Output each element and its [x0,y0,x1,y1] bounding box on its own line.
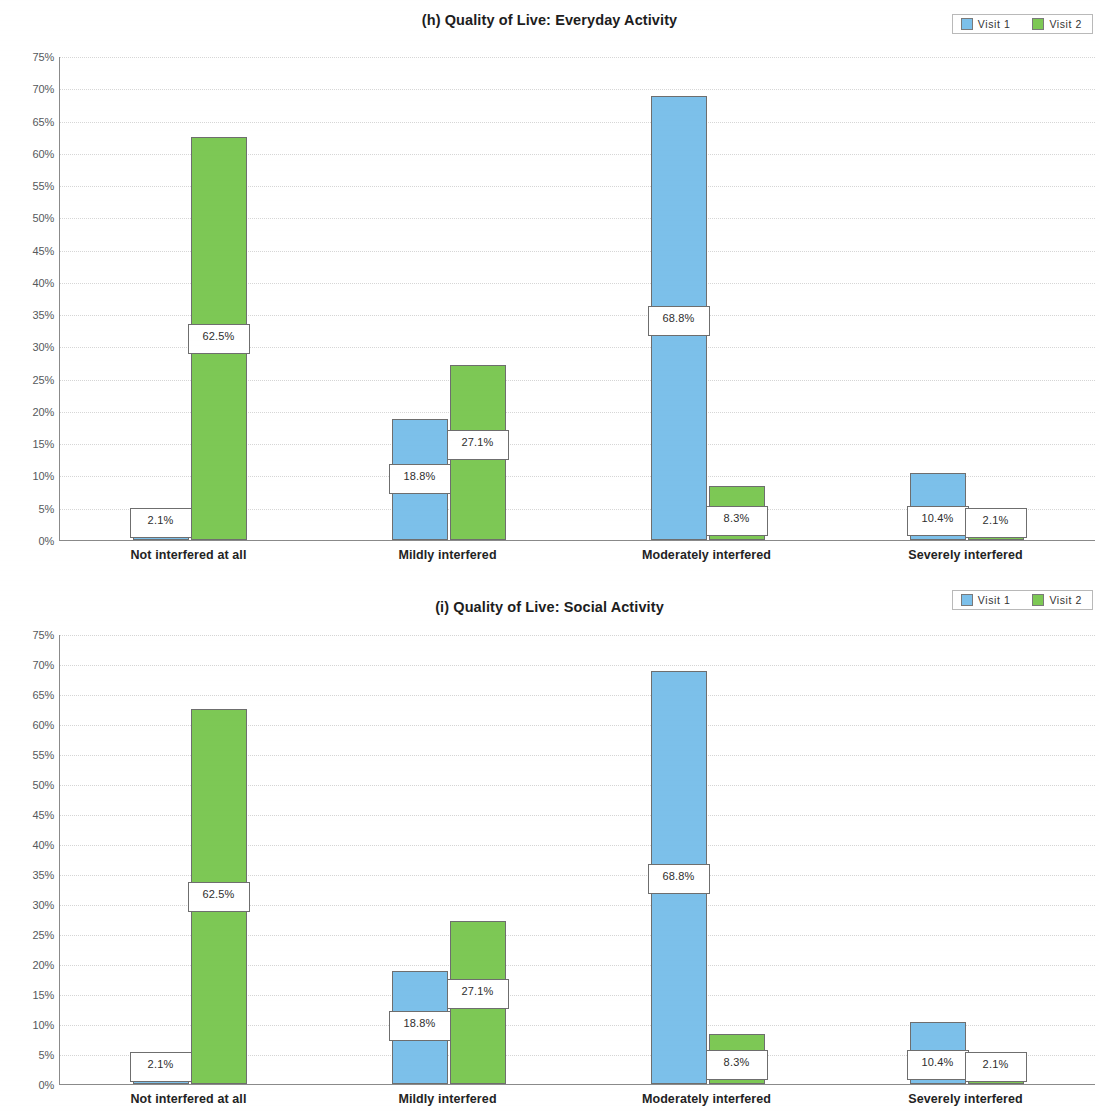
y-axis-tick-label: 45% [0,245,54,257]
y-axis-tick-label: 40% [0,277,54,289]
bar-group: 2.1%62.5% [60,57,319,540]
y-axis-tick-label: 75% [0,629,54,641]
legend-label-visit-2: Visit 2 [1049,18,1082,30]
y-axis-tick-label: 75% [0,51,54,63]
y-axis-tick-label: 40% [0,839,54,851]
y-axis-tick-label: 50% [0,212,54,224]
y-axis-tick-label: 35% [0,869,54,881]
y-axis-tick-label: 60% [0,148,54,160]
chart-panel-everyday-activity: (h) Quality of Live: Everyday Activity V… [0,0,1099,583]
bar-group: 10.4%2.1% [837,57,1096,540]
x-axis-category-label: Not interfered at all [130,548,246,562]
bar-data-label: 2.1% [130,508,192,538]
y-axis-tick-label: 30% [0,341,54,353]
bar-data-label: 2.1% [130,1052,192,1082]
y-axis-tick-label: 25% [0,374,54,386]
y-axis-tick-label: 25% [0,929,54,941]
legend-label-visit-1: Visit 1 [978,18,1011,30]
x-axis-category-label: Severely interfered [908,548,1022,562]
bar-data-label: 27.1% [447,430,509,460]
y-axis-tick-label: 65% [0,116,54,128]
bar-data-label: 10.4% [907,506,969,536]
y-axis-tick-label: 55% [0,180,54,192]
y-axis-tick-label: 0% [0,1079,54,1091]
y-axis: 75%70%65%60%55%50%45%40%35%30%25%20%15%1… [0,57,54,541]
legend-label-visit-2: Visit 2 [1049,594,1082,606]
y-axis-tick-label: 20% [0,406,54,418]
bar-data-label: 8.3% [706,1050,768,1080]
legend-swatch-visit-1-icon [961,594,973,606]
x-axis-category-label: Not interfered at all [130,1092,246,1106]
legend-label-visit-1: Visit 1 [978,594,1011,606]
legend-entry-visit-1: Visit 1 [961,18,1011,30]
bar-data-label: 18.8% [389,464,451,494]
y-axis-tick-label: 0% [0,535,54,547]
x-axis-category-label: Severely interfered [908,1092,1022,1106]
bar-data-label: 62.5% [188,324,250,354]
bar-data-label: 2.1% [965,1052,1027,1082]
y-axis-tick-label: 70% [0,83,54,95]
bar-group: 2.1%62.5% [60,635,319,1084]
y-axis-tick-label: 70% [0,659,54,671]
x-axis-category-label: Moderately interfered [642,1092,771,1106]
y-axis-tick-label: 20% [0,959,54,971]
legend-swatch-visit-2-icon [1032,594,1044,606]
y-axis-tick-label: 35% [0,309,54,321]
bar-data-label: 62.5% [188,882,250,912]
chart-title: (i) Quality of Live: Social Activity [0,599,1099,615]
y-axis-tick-label: 55% [0,749,54,761]
chart-legend: Visit 1 Visit 2 [952,14,1093,34]
bar-data-label: 8.3% [706,506,768,536]
bar-data-label: 2.1% [965,508,1027,538]
y-axis: 75%70%65%60%55%50%45%40%35%30%25%20%15%1… [0,635,54,1085]
x-axis-category-label: Mildly interfered [398,1092,496,1106]
legend-entry-visit-2: Visit 2 [1032,18,1082,30]
bar-data-label: 27.1% [447,979,509,1009]
bar-data-label: 68.8% [648,306,710,336]
legend-entry-visit-2: Visit 2 [1032,594,1082,606]
x-axis: Not interfered at allMildly interferedMo… [59,548,1095,572]
y-axis-tick-label: 60% [0,719,54,731]
x-axis-category-label: Moderately interfered [642,548,771,562]
legend-swatch-visit-2-icon [1032,18,1044,30]
y-axis-tick-label: 10% [0,1019,54,1031]
y-axis-tick-label: 15% [0,438,54,450]
legend-entry-visit-1: Visit 1 [961,594,1011,606]
y-axis-tick-label: 15% [0,989,54,1001]
plot-area: 2.1%62.5%18.8%27.1%68.8%8.3%10.4%2.1% [59,635,1095,1085]
chart-title: (h) Quality of Live: Everyday Activity [0,12,1099,28]
y-axis-tick-label: 45% [0,809,54,821]
bar-group-container: 2.1%62.5%18.8%27.1%68.8%8.3%10.4%2.1% [60,635,1095,1084]
x-axis: Not interfered at allMildly interferedMo… [59,1092,1095,1113]
chart-legend: Visit 1 Visit 2 [952,590,1093,610]
legend-swatch-visit-1-icon [961,18,973,30]
y-axis-tick-label: 30% [0,899,54,911]
bar-group: 68.8%8.3% [578,57,837,540]
bar-data-label: 10.4% [907,1050,969,1080]
bar-group-container: 2.1%62.5%18.8%27.1%68.8%8.3%10.4%2.1% [60,57,1095,540]
bar-group: 18.8%27.1% [319,635,578,1084]
x-axis-category-label: Mildly interfered [398,548,496,562]
chart-panel-social-activity: (i) Quality of Live: Social Activity Vis… [0,583,1099,1113]
bar-group: 10.4%2.1% [837,635,1096,1084]
plot-area: 2.1%62.5%18.8%27.1%68.8%8.3%10.4%2.1% [59,57,1095,541]
y-axis-tick-label: 5% [0,503,54,515]
bar-group: 18.8%27.1% [319,57,578,540]
y-axis-tick-label: 10% [0,470,54,482]
y-axis-tick-label: 65% [0,689,54,701]
y-axis-tick-label: 50% [0,779,54,791]
bar-data-label: 18.8% [389,1011,451,1041]
y-axis-tick-label: 5% [0,1049,54,1061]
bar-data-label: 68.8% [648,864,710,894]
bar-group: 68.8%8.3% [578,635,837,1084]
